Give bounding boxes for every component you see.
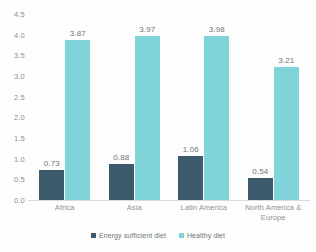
- bar[interactable]: 3.98: [204, 36, 229, 201]
- bar-wrapper: 0.73: [39, 14, 64, 200]
- bar-group: 0.543.21: [239, 14, 309, 200]
- x-axis-tick-label: Asia: [100, 203, 170, 231]
- bar-value-label: 0.73: [44, 159, 60, 168]
- bar-wrapper: 0.54: [248, 14, 273, 200]
- y-axis-tick-label: 1.5: [14, 134, 25, 143]
- bar-value-label: 1.06: [183, 145, 199, 154]
- x-axis-tick-label: Latin America: [169, 203, 239, 231]
- bar-wrapper: 3.97: [135, 14, 160, 200]
- bar-value-label: 0.88: [113, 153, 129, 162]
- legend-swatch-icon: [91, 233, 96, 238]
- bar-wrapper: 3.87: [65, 14, 90, 200]
- x-axis-tick-line: Africa: [31, 203, 99, 213]
- x-axis-tick-label: Africa: [30, 203, 100, 231]
- bar[interactable]: 1.06: [178, 156, 203, 200]
- bar-value-label: 3.87: [70, 29, 86, 38]
- bar-value-label: 3.97: [139, 25, 155, 34]
- bar[interactable]: 0.73: [39, 170, 64, 200]
- bar-wrapper: 3.98: [204, 14, 229, 200]
- x-axis-tick-line: North America &: [240, 203, 308, 213]
- x-axis: AfricaAsiaLatin AmericaNorth America &Eu…: [30, 203, 308, 231]
- y-axis-tick-label: 0.0: [14, 196, 25, 205]
- y-axis-tick-label: 0.5: [14, 175, 25, 184]
- bar-value-label: 3.21: [278, 56, 294, 65]
- x-axis-tick-line: Europe: [240, 213, 308, 223]
- y-axis-tick-label: 3.0: [14, 72, 25, 81]
- bar-group: 0.733.87: [30, 14, 100, 200]
- x-axis-tick-label: North America &Europe: [239, 203, 309, 231]
- y-axis-tick-label: 1.0: [14, 154, 25, 163]
- legend-label: Healthy diet: [187, 232, 225, 239]
- legend-swatch-icon: [179, 233, 184, 238]
- legend-item[interactable]: Healthy diet: [179, 232, 225, 239]
- y-axis-tick-label: 3.5: [14, 51, 25, 60]
- axis-baseline: [28, 200, 310, 201]
- x-axis-tick-line: Latin America: [170, 203, 238, 213]
- bar-chart: 4.54.03.53.02.52.01.51.00.50.0 0.733.870…: [0, 0, 316, 252]
- y-axis-tick-label: 4.5: [14, 10, 25, 19]
- bar-group: 0.883.97: [100, 14, 170, 200]
- bar-value-label: 3.98: [209, 25, 225, 34]
- bar[interactable]: 3.87: [65, 40, 90, 200]
- bar-group: 1.063.98: [169, 14, 239, 200]
- bar-wrapper: 3.21: [274, 14, 299, 200]
- bar[interactable]: 3.21: [274, 67, 299, 200]
- bar[interactable]: 0.54: [248, 178, 273, 200]
- y-axis-tick-label: 2.5: [14, 92, 25, 101]
- legend-label: Energy sufficient diet: [99, 232, 166, 239]
- x-axis-tick-line: Asia: [101, 203, 169, 213]
- chart-legend: Energy sufficient dietHealthy diet: [0, 232, 316, 239]
- bar[interactable]: 3.97: [135, 36, 160, 200]
- y-axis: 4.54.03.53.02.52.01.51.00.50.0: [0, 14, 28, 200]
- bar-groups: 0.733.870.883.971.063.980.543.21: [30, 14, 308, 200]
- y-axis-tick-label: 4.0: [14, 30, 25, 39]
- y-axis-tick-label: 2.0: [14, 113, 25, 122]
- bar-wrapper: 0.88: [109, 14, 134, 200]
- bar-wrapper: 1.06: [178, 14, 203, 200]
- legend-item[interactable]: Energy sufficient diet: [91, 232, 166, 239]
- bar[interactable]: 0.88: [109, 164, 134, 200]
- bar-value-label: 0.54: [252, 167, 268, 176]
